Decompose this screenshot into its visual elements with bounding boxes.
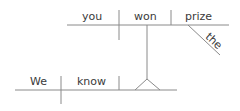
sentence-diagram: you won prize the We know xyxy=(0,0,240,111)
clause-object-word: prize xyxy=(185,11,212,23)
clause-subject-word: you xyxy=(82,11,102,23)
clause-verb-word: won xyxy=(134,11,157,23)
pedestal xyxy=(135,79,160,90)
main-subject-word: We xyxy=(30,76,47,88)
main-verb-word: know xyxy=(77,76,106,88)
